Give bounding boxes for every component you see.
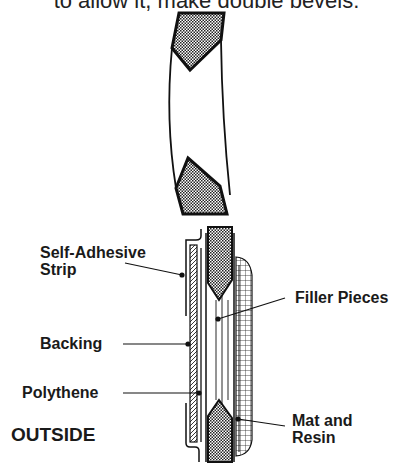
label-line-2: Strip: [40, 261, 146, 278]
label-line-1: Self-Adhesive: [40, 244, 146, 261]
label-self-adhesive-strip: Self-Adhesive Strip: [40, 244, 146, 278]
label-outside: OUTSIDE: [11, 425, 95, 445]
leader-backing: [123, 341, 191, 346]
label-line-1: Mat and: [292, 412, 352, 429]
label-filler-pieces: Filler Pieces: [295, 289, 388, 306]
label-line-2: Resin: [292, 429, 352, 446]
upper-hull-section: [169, 13, 230, 214]
label-polythene: Polythene: [22, 384, 98, 401]
label-backing: Backing: [40, 335, 102, 352]
lower-repair-section: [123, 227, 285, 462]
label-mat-and-resin: Mat and Resin: [292, 412, 352, 446]
